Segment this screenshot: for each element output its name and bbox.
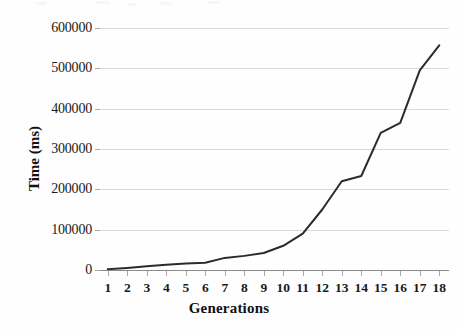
x-tick-12 — [322, 271, 323, 276]
x-tick-8 — [244, 271, 245, 276]
x-tick-label-17: 17 — [413, 280, 427, 296]
x-tick-17 — [420, 271, 421, 276]
y-tick-300000 — [95, 149, 100, 150]
y-tick-label-0: 0 — [85, 262, 92, 278]
x-tick-2 — [127, 271, 128, 276]
y-tick-600000 — [95, 28, 100, 29]
x-axis-title: Generations — [0, 300, 458, 317]
x-tick-5 — [186, 271, 187, 276]
x-axis-line — [98, 270, 449, 271]
x-tick-14 — [361, 271, 362, 276]
plot-area — [98, 28, 449, 270]
x-tick-13 — [342, 271, 343, 276]
x-tick-4 — [166, 271, 167, 276]
x-tick-16 — [400, 271, 401, 276]
x-tick-label-14: 14 — [355, 280, 369, 296]
x-tick-15 — [381, 271, 382, 276]
x-tick-7 — [225, 271, 226, 276]
x-tick-label-6: 6 — [202, 280, 209, 296]
y-tick-label-400000: 400000 — [51, 101, 92, 117]
y-tick-500000 — [95, 68, 100, 69]
y-axis-title: Time (ms) — [26, 99, 43, 219]
x-tick-11 — [303, 271, 304, 276]
chart-figure: 600000 500000 400000 300000 200000 10000… — [0, 0, 458, 331]
x-tick-label-3: 3 — [143, 280, 150, 296]
x-tick-label-12: 12 — [316, 280, 330, 296]
x-tick-label-8: 8 — [241, 280, 248, 296]
x-tick-3 — [147, 271, 148, 276]
x-tick-label-7: 7 — [221, 280, 228, 296]
y-tick-0 — [95, 270, 100, 271]
x-tick-label-18: 18 — [433, 280, 447, 296]
x-tick-label-5: 5 — [182, 280, 189, 296]
y-tick-label-500000: 500000 — [51, 60, 92, 76]
y-tick-400000 — [95, 109, 100, 110]
x-tick-9 — [264, 271, 265, 276]
x-tick-label-15: 15 — [374, 280, 388, 296]
y-tick-100000 — [95, 230, 100, 231]
x-tick-label-4: 4 — [163, 280, 170, 296]
y-tick-label-300000: 300000 — [51, 141, 92, 157]
x-tick-1 — [108, 271, 109, 276]
x-tick-label-9: 9 — [260, 280, 267, 296]
x-tick-10 — [283, 271, 284, 276]
x-tick-6 — [205, 271, 206, 276]
x-tick-label-11: 11 — [296, 280, 309, 296]
data-series-line — [98, 28, 449, 270]
y-tick-label-100000: 100000 — [51, 222, 92, 238]
x-tick-label-13: 13 — [335, 280, 349, 296]
x-tick-label-1: 1 — [104, 280, 111, 296]
x-tick-label-2: 2 — [124, 280, 131, 296]
x-tick-label-16: 16 — [394, 280, 408, 296]
x-tick-18 — [439, 271, 440, 276]
y-tick-label-600000: 600000 — [51, 20, 92, 36]
y-axis-labels: 600000 500000 400000 300000 200000 10000… — [0, 0, 92, 331]
y-tick-label-200000: 200000 — [51, 181, 92, 197]
y-tick-200000 — [95, 189, 100, 190]
x-tick-label-10: 10 — [277, 280, 291, 296]
